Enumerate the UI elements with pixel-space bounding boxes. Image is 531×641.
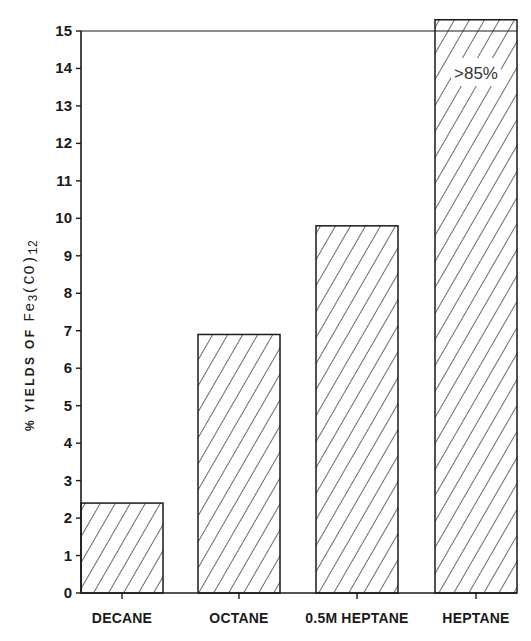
bar-octane <box>198 334 280 593</box>
x-axis-labels: DECANEOCTANE0.5M HEPTANEHEPTANE <box>92 593 510 626</box>
y-tick-label: 1 <box>64 547 72 564</box>
y-tick-label: 12 <box>55 134 72 151</box>
y-tick-label: 4 <box>64 434 73 451</box>
y-tick-label: 11 <box>56 172 72 189</box>
y-tick-label: 3 <box>64 472 72 489</box>
bar-decane <box>81 503 163 593</box>
y-tick-label: 10 <box>55 209 72 226</box>
y-tick-label: 0 <box>64 584 72 601</box>
y-tick-label: 13 <box>55 97 72 114</box>
bars-group <box>81 20 517 593</box>
y-tick-label: 8 <box>64 284 72 301</box>
annotation-label: >85% <box>454 64 498 83</box>
x-tick-label: OCTANE <box>209 610 268 626</box>
y-tick-label: 15 <box>55 22 72 39</box>
y-tick-label: 7 <box>64 322 72 339</box>
y-axis-ticks: 0123456789101112131415 <box>55 22 81 601</box>
x-tick-label: DECANE <box>92 610 152 626</box>
y-tick-label: 14 <box>55 59 72 76</box>
bar-0-5m-heptane <box>316 226 398 593</box>
bar-heptane <box>435 20 517 593</box>
y-tick-label: 2 <box>64 509 72 526</box>
y-tick-label: 9 <box>64 247 72 264</box>
x-tick-label: HEPTANE <box>442 610 509 626</box>
x-tick-label: 0.5M HEPTANE <box>305 610 408 626</box>
y-tick-label: 5 <box>64 397 72 414</box>
y-tick-label: 6 <box>64 359 72 376</box>
bar-chart: 0123456789101112131415 DECANEOCTANE0.5M … <box>0 0 531 641</box>
annotations: >85% <box>451 58 501 86</box>
